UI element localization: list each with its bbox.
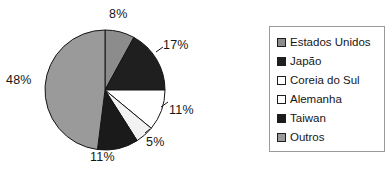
legend-swatch-icon bbox=[277, 76, 286, 85]
pie-label-estados-unidos: 8% bbox=[109, 7, 127, 21]
legend-label: Alemanha bbox=[290, 94, 342, 106]
leader-line-japao bbox=[156, 47, 163, 52]
pie-label-outros: 48% bbox=[6, 73, 32, 87]
legend-item-japao[interactable]: Japão bbox=[277, 52, 384, 71]
legend-label: Estados Unidos bbox=[290, 37, 371, 49]
legend-item-outros[interactable]: Outros bbox=[277, 128, 384, 147]
legend-swatch-icon bbox=[277, 57, 286, 66]
legend-item-coreia-do-sul[interactable]: Coreia do Sul bbox=[277, 71, 384, 90]
pie-label-taiwan: 11% bbox=[90, 150, 115, 164]
legend-label: Outros bbox=[290, 132, 325, 144]
legend-item-taiwan[interactable]: Taiwan bbox=[277, 109, 384, 128]
pie-plot-area: 48% 8% 17% 11% 5% 11% bbox=[0, 0, 262, 172]
legend-swatch-icon bbox=[277, 114, 286, 123]
legend-label: Coreia do Sul bbox=[290, 75, 360, 87]
legend-swatch-icon bbox=[277, 95, 286, 104]
legend-swatch-icon bbox=[277, 133, 286, 142]
legend-label: Taiwan bbox=[290, 113, 326, 125]
legend-label: Japão bbox=[290, 56, 321, 68]
pie-slice-outros[interactable] bbox=[45, 30, 105, 150]
pie-label-coreia-do-sul: 11% bbox=[169, 103, 194, 117]
pie-label-japao: 17% bbox=[163, 38, 189, 52]
chart-legend: Estados Unidos Japão Coreia do Sul Alema… bbox=[269, 26, 385, 152]
legend-item-alemanha[interactable]: Alemanha bbox=[277, 90, 384, 109]
pie-label-alemanha: 5% bbox=[146, 135, 164, 149]
pie-chart-figure: 48% 8% 17% 11% 5% 11% Estados Unidos Jap… bbox=[0, 0, 389, 172]
legend-item-estados-unidos[interactable]: Estados Unidos bbox=[277, 33, 384, 52]
pie-svg bbox=[0, 0, 262, 172]
legend-swatch-icon bbox=[277, 38, 286, 47]
